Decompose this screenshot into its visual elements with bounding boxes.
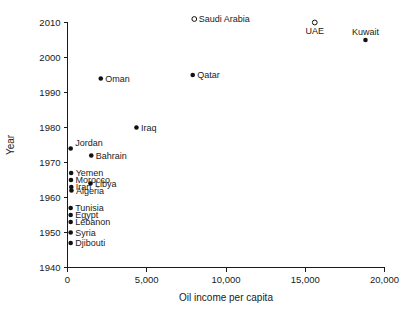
data-point-label: Bahrain <box>96 151 127 161</box>
data-point-label: Lebanon <box>75 217 110 227</box>
data-point-marker <box>68 241 73 246</box>
data-point-label: Kuwait <box>352 27 380 37</box>
y-tick-label: 2010 <box>39 17 60 28</box>
data-point-marker <box>312 20 317 25</box>
data-point-marker <box>363 38 368 43</box>
data-point-marker <box>68 146 73 151</box>
data-point-label: Djibouti <box>75 238 105 248</box>
x-tick-label: 10,000 <box>211 274 240 285</box>
data-point-label: Syria <box>75 228 96 238</box>
x-tick-label: 20,000 <box>370 274 399 285</box>
y-tick-label: 1950 <box>39 227 60 238</box>
data-point-marker <box>190 73 195 78</box>
data-point-label: Qatar <box>197 70 220 80</box>
data-point-label: UAE <box>306 26 325 36</box>
x-axis-ticks: 05,00010,00015,00020,000 <box>65 268 399 285</box>
scatter-chart-figure: 19401950196019701980199020002010 05,0001… <box>0 0 412 317</box>
data-point-label: Algeria <box>76 186 104 196</box>
plot-canvas: 19401950196019701980199020002010 05,0001… <box>0 0 412 317</box>
x-axis-title: Oil income per capita <box>179 292 273 303</box>
y-tick-label: 1980 <box>39 122 60 133</box>
data-point-marker <box>68 230 73 235</box>
data-point-marker <box>192 17 197 22</box>
data-point-marker <box>69 188 74 193</box>
data-point-marker <box>69 171 74 176</box>
data-point-marker <box>134 125 139 130</box>
y-tick-label: 1990 <box>39 87 60 98</box>
data-point-label: Iraq <box>141 123 157 133</box>
data-point-marker <box>68 220 73 225</box>
y-axis-ticks: 19401950196019701980199020002010 <box>39 17 67 273</box>
x-tick-label: 5,000 <box>135 274 159 285</box>
data-point-label: Jordan <box>75 138 103 148</box>
data-point-group: Saudi ArabiaUAEKuwaitQatarOmanIraqJordan… <box>68 14 379 248</box>
data-point-marker <box>98 76 103 81</box>
data-point-marker <box>68 213 73 218</box>
data-point-label: Oman <box>105 74 130 84</box>
x-tick-label: 0 <box>65 274 70 285</box>
y-tick-label: 2000 <box>39 52 60 63</box>
y-axis-title: Year <box>5 134 16 155</box>
x-tick-label: 15,000 <box>291 274 320 285</box>
y-tick-label: 1940 <box>39 262 60 273</box>
data-point-label: Saudi Arabia <box>199 14 250 24</box>
y-tick-label: 1960 <box>39 192 60 203</box>
data-point-marker <box>68 206 73 211</box>
data-point-marker <box>89 153 94 158</box>
data-point-marker <box>69 178 74 183</box>
y-tick-label: 1970 <box>39 157 60 168</box>
